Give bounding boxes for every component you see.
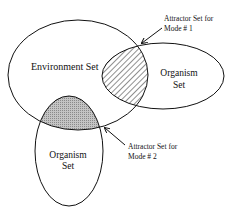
organism-set-1-label: Organism: [160, 68, 198, 78]
organism-set-1-label-line2: Set: [173, 80, 186, 90]
organism-set-2-label: Organism: [49, 150, 87, 160]
annotation-mode2-line2: Mode # 2: [128, 152, 157, 161]
venn-diagram: Environment Set Organism Set Organism Se…: [0, 0, 235, 217]
annotation-mode1-line2: Mode # 1: [164, 24, 193, 33]
arrow-mode1-icon: [142, 28, 162, 43]
organism-set-2-label-line2: Set: [62, 161, 75, 171]
annotation-mode2-line1: Attractor Set for: [128, 142, 178, 151]
environment-set-label: Environment Set: [31, 61, 99, 72]
annotation-mode1-line1: Attractor Set for: [164, 14, 214, 23]
arrow-mode2-icon: [105, 128, 125, 145]
